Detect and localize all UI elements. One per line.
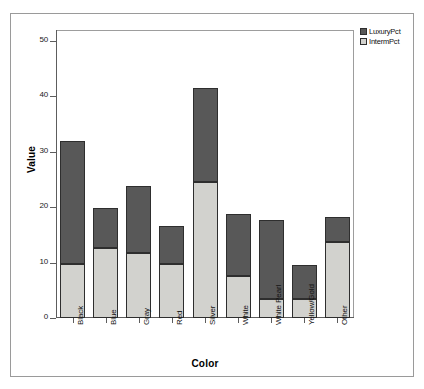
bar-group[interactable] <box>93 208 118 318</box>
bar-segment-luxurypct[interactable] <box>126 186 151 253</box>
y-tick: 0 <box>50 318 56 319</box>
y-axis-title: Value <box>26 130 37 190</box>
x-tick-label: Black <box>76 306 85 325</box>
legend-swatch <box>360 28 367 35</box>
x-tick-label: White <box>241 305 250 325</box>
x-tick-label: Yellow/Gold <box>307 284 316 325</box>
x-tick-mark <box>337 318 338 323</box>
x-tick-label: Silver <box>208 306 217 325</box>
x-tick-mark <box>139 318 140 323</box>
x-tick-mark <box>238 318 239 323</box>
bar-segment-luxurypct[interactable] <box>159 226 184 264</box>
x-axis-title: Color <box>56 358 354 369</box>
x-tick-label: Other <box>340 305 349 325</box>
bar-group[interactable] <box>226 214 251 318</box>
y-tick-label: 50 <box>40 35 49 44</box>
x-tick-label: Gray <box>142 308 151 325</box>
y-tick-label: 30 <box>40 146 49 155</box>
x-tick-mark <box>172 318 173 323</box>
y-tick-label: 40 <box>40 90 49 99</box>
legend-item[interactable]: IntermPct <box>360 37 412 46</box>
chart-legend: LuxuryPctIntermPct <box>360 27 412 47</box>
y-tick-mark <box>50 318 56 319</box>
legend-label: IntermPct <box>369 37 399 46</box>
y-tick-label: 10 <box>40 257 49 266</box>
bar-segment-luxurypct[interactable] <box>193 88 218 182</box>
bar-segment-luxurypct[interactable] <box>226 214 251 277</box>
bar-segment-luxurypct[interactable] <box>325 217 350 242</box>
chart-figure: 01020304050 Value BlackBlueGrayRedSilver… <box>10 13 414 377</box>
x-tick-mark <box>205 318 206 323</box>
x-tick-mark <box>73 318 74 323</box>
x-tick-mark <box>271 318 272 323</box>
x-tick-label: Red <box>175 311 184 325</box>
x-tick-label: Blue <box>109 309 118 325</box>
bar-group[interactable] <box>159 226 184 318</box>
x-tick-mark <box>106 318 107 323</box>
y-tick-label: 20 <box>40 201 49 210</box>
bars-layer <box>56 30 354 318</box>
bar-segment-intermpct[interactable] <box>193 182 218 318</box>
bar-group[interactable] <box>325 217 350 318</box>
y-tick-label: 0 <box>44 312 48 321</box>
legend-item[interactable]: LuxuryPct <box>360 27 412 36</box>
bar-segment-luxurypct[interactable] <box>93 208 118 247</box>
x-tick-mark <box>304 318 305 323</box>
bar-segment-intermpct[interactable] <box>93 248 118 318</box>
bar-segment-luxurypct[interactable] <box>60 141 85 263</box>
legend-label: LuxuryPct <box>369 27 401 36</box>
bar-group[interactable] <box>126 186 151 318</box>
legend-swatch <box>360 38 367 45</box>
x-tick-label: White Pearl <box>274 285 283 325</box>
bar-group[interactable] <box>60 141 85 318</box>
bar-group[interactable] <box>193 88 218 318</box>
